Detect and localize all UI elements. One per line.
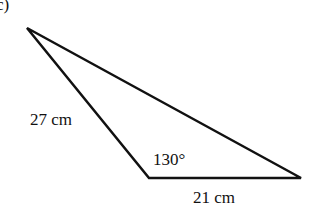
triangle-diagram: c) 27 cm 130° 21 cm [0, 0, 311, 216]
side-left-label: 27 cm [30, 111, 72, 128]
side-bottom-label: 21 cm [193, 189, 235, 206]
triangle-shape [0, 0, 311, 216]
angle-label: 130° [153, 151, 185, 168]
